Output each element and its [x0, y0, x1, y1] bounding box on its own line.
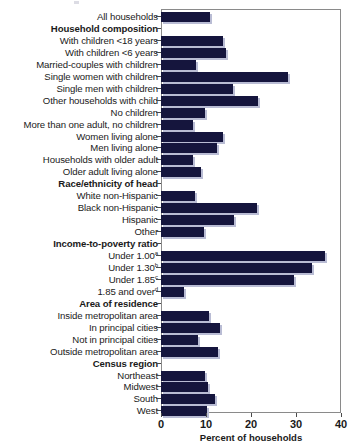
- bar: [161, 382, 208, 392]
- x-axis-tickmark: [341, 413, 342, 417]
- y-axis-tickmark: [156, 303, 161, 304]
- bar: [161, 155, 193, 165]
- y-axis-tickmark: [156, 28, 161, 29]
- bar: [161, 48, 226, 58]
- bar: [161, 323, 220, 333]
- x-axis-tickmark: [251, 413, 252, 417]
- bar: [161, 203, 257, 213]
- bar: [161, 120, 193, 130]
- bar: [161, 275, 294, 285]
- bar: [161, 167, 201, 177]
- bar: [161, 84, 233, 94]
- bar: [161, 335, 198, 345]
- bar: [161, 251, 325, 261]
- x-axis-tick-label: 20: [236, 418, 266, 430]
- x-axis-tick-label: 10: [191, 418, 221, 430]
- bar: [161, 394, 215, 404]
- y-axis-tickmark: [156, 363, 161, 364]
- x-axis-tick-label: 0: [146, 418, 176, 430]
- x-axis-ticks: 010203040: [0, 413, 355, 418]
- bar: [161, 108, 205, 118]
- bar: [161, 96, 258, 106]
- bar: [161, 132, 223, 142]
- bar: [161, 72, 288, 82]
- bar: [161, 36, 223, 46]
- x-axis-tickmark: [206, 413, 207, 417]
- x-axis-tickmark: [296, 413, 297, 417]
- bar: [161, 347, 218, 357]
- bar: [161, 215, 234, 225]
- x-axis-tick-label: 30: [281, 418, 311, 430]
- bar: [161, 287, 184, 297]
- bar: [161, 191, 195, 201]
- bar: [161, 227, 204, 237]
- bar: [161, 12, 210, 22]
- bar: [161, 371, 205, 381]
- x-axis-title: Percent of households: [161, 432, 341, 443]
- x-axis-tickmark: [161, 413, 162, 417]
- bar: [161, 311, 209, 321]
- household-food-security-bar-chart: All householdsHousehold compositionWith …: [0, 0, 355, 446]
- x-axis-tick-label: 40: [326, 418, 355, 430]
- bar: [161, 60, 196, 70]
- bar: [161, 263, 312, 273]
- bar: [161, 143, 217, 153]
- y-axis-tickmark: [156, 243, 161, 244]
- top-edge-artifact: [74, 1, 79, 4]
- y-axis-tickmark: [156, 183, 161, 184]
